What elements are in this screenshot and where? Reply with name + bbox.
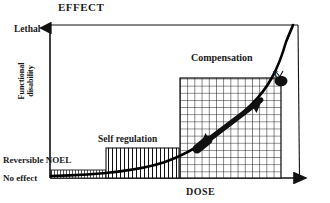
self-regulation-box [106, 148, 179, 178]
compensation-box [180, 78, 281, 178]
chart-top-label: EFFECT [58, 1, 104, 13]
figure-canvas [0, 0, 330, 203]
self-regulation-label: Self regulation [98, 134, 157, 144]
y-tick-lethal: Lethal [14, 24, 40, 34]
y-axis-label: Functional disability [17, 41, 35, 121]
dose-response-figure: EFFECT DOSE Lethal Reversible NOEL No ef… [0, 0, 330, 203]
compensation-label: Compensation [191, 52, 253, 63]
y-tick-reversible-noel: Reversible NOEL [3, 155, 71, 165]
point-marker-label: X [272, 69, 278, 79]
x-axis-label: DOSE [186, 186, 215, 197]
y-tick-no-effect: No effect [3, 173, 37, 183]
